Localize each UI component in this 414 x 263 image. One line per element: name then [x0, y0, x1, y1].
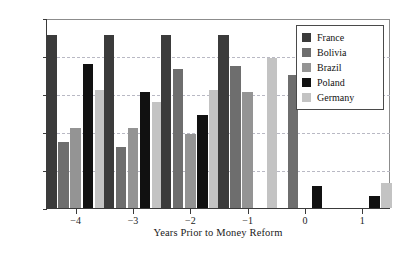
x-axis-tick-label: 0 [303, 215, 308, 226]
legend-item[interactable]: Brazil [302, 60, 378, 75]
chart-legend: FranceBoliviaBrazilPolandGermany [296, 25, 384, 110]
bar [381, 183, 392, 208]
bar [312, 186, 323, 208]
bar [173, 69, 184, 208]
x-axis-tick-mark [133, 209, 134, 214]
legend-swatch-icon [302, 33, 311, 42]
bar [58, 142, 69, 209]
legend-item-label: Bolivia [317, 48, 346, 58]
bar [161, 35, 172, 208]
bar [230, 66, 241, 209]
legend-item[interactable]: Germany [302, 90, 378, 105]
bar [116, 147, 127, 208]
y-axis-tick-mark [43, 19, 47, 20]
bar [70, 128, 81, 208]
legend-item[interactable]: Bolivia [302, 45, 378, 60]
x-axis-tick-mark [305, 209, 306, 214]
y-axis-tick-mark [43, 171, 47, 172]
legend-item-label: Germany [317, 93, 354, 103]
bar [185, 134, 196, 208]
legend-item[interactable]: Poland [302, 75, 378, 90]
x-axis-tick-label: −1 [242, 215, 253, 226]
legend-item-label: Brazil [317, 63, 341, 73]
x-axis-tick-mark [190, 209, 191, 214]
bar [83, 64, 94, 208]
bar [128, 128, 139, 208]
legend-swatch-icon [302, 48, 311, 57]
x-axis-tick-mark [248, 209, 249, 214]
legend-item-label: Poland [317, 78, 345, 88]
bar [218, 35, 229, 208]
bar [46, 35, 57, 208]
legend-swatch-icon [302, 63, 311, 72]
y-axis-tick-mark [43, 133, 47, 134]
bar [140, 92, 151, 208]
x-axis-tick-label: −2 [185, 215, 196, 226]
legend-item[interactable]: France [302, 30, 378, 45]
x-axis-tick-label: −3 [128, 215, 139, 226]
x-axis-tick-label: 1 [360, 215, 365, 226]
legend-swatch-icon [302, 78, 311, 87]
x-axis-title: Years Prior to Money Reform [46, 227, 390, 238]
bar [369, 196, 380, 208]
bar [242, 92, 253, 208]
bar [197, 115, 208, 208]
y-axis-tick-mark [43, 95, 47, 96]
legend-item-label: France [317, 33, 344, 43]
bar-chart: −4−3−2−101 0%20%40%60%80%100% Years Prio… [0, 0, 414, 263]
legend-swatch-icon [302, 93, 311, 102]
x-axis-tick-mark [362, 209, 363, 214]
x-axis-tick-mark [76, 209, 77, 214]
x-axis-tick-label: −4 [70, 215, 81, 226]
y-axis-tick-mark [43, 57, 47, 58]
bar [267, 58, 278, 208]
bar [104, 35, 115, 208]
y-axis-tick-mark [43, 209, 47, 210]
